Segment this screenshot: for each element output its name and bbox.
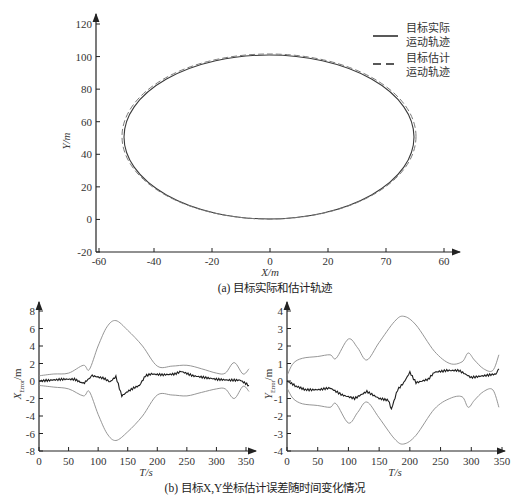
x-axis-label: T/s (139, 466, 152, 478)
x-tick-label: 150 (119, 455, 136, 467)
x-ticks: -60-40-200207060 (92, 248, 450, 267)
y-tick-label: 8 (30, 305, 36, 317)
figure: -20020406080100120 -60-40-200207060 Y/m … (0, 0, 522, 502)
y-tick-label: 0 (30, 375, 36, 387)
y-axis-label: YError/m (262, 368, 276, 399)
caption-a: (a) 目标实际和估计轨迹 (218, 281, 334, 295)
y-error-chart: -4-3-2-101234 050100150200250300350 YErr… (262, 302, 511, 478)
y-tick-label: -6 (26, 428, 36, 440)
y-tick-label: 120 (76, 18, 93, 30)
y-tick-label: -8 (26, 445, 36, 457)
y-tick-label: 80 (81, 83, 93, 95)
x-tick-label: 150 (371, 455, 388, 467)
y-tick-label: 6 (30, 323, 36, 335)
y-tick-label: -3 (274, 428, 284, 440)
y-axis-label: Y/m (60, 132, 72, 149)
actual-trajectory (124, 55, 414, 219)
y-tick-label: 20 (81, 181, 93, 193)
x-tick-label: -60 (92, 255, 107, 267)
y-tick-label: 2 (30, 358, 36, 370)
lower-bound-line (39, 385, 249, 440)
legend: 目标实际 运动轨迹 目标估计 运动轨迹 (373, 21, 450, 78)
y-tick-label: 0 (87, 213, 93, 225)
x-tick-label: 0 (284, 455, 290, 467)
x-tick-label: 50 (63, 455, 75, 467)
upper-bound-line (287, 316, 499, 376)
x-error-chart: -8-6-4-202468 050100150200250300350 XErr… (11, 302, 256, 478)
x-tick-label: 350 (238, 455, 255, 467)
x-tick-label: 100 (340, 455, 357, 467)
y-tick-label: 0 (278, 375, 284, 387)
x-tick-label: -20 (205, 255, 220, 267)
x-tick-label: 200 (402, 455, 419, 467)
y-tick-label: 4 (30, 340, 36, 352)
y-tick-label: 1 (278, 358, 284, 370)
legend-actual-line2: 运动轨迹 (406, 35, 450, 48)
y-tick-label: 3 (278, 323, 284, 335)
y-tick-label: 40 (81, 148, 93, 160)
error-line (39, 371, 249, 396)
x-tick-label: 20 (323, 255, 335, 267)
y-tick-label: 100 (76, 51, 93, 63)
y-tick-label: 2 (278, 340, 284, 352)
x-ticks: 050100150200250300350 (36, 447, 255, 467)
x-tick-label: 250 (179, 455, 196, 467)
x-axis-label: X/m (260, 266, 279, 278)
x-tick-label: 300 (208, 455, 225, 467)
x-tick-label: 350 (494, 455, 511, 467)
y-tick-label: -4 (274, 445, 284, 457)
series (39, 321, 249, 441)
trajectory-chart: -20020406080100120 -60-40-200207060 Y/m … (60, 14, 460, 295)
y-tick-label: -2 (274, 410, 283, 422)
x-ticks: 050100150200250300350 (284, 447, 511, 467)
y-tick-label: 60 (81, 116, 93, 128)
series (287, 316, 499, 444)
upper-bound-line (39, 321, 249, 376)
error-line (287, 369, 499, 409)
y-axis-label: XError/m (11, 368, 25, 400)
y-tick-label: 4 (278, 305, 284, 317)
x-axis-label: T/s (388, 466, 401, 478)
y-tick-label: -20 (77, 246, 92, 258)
y-ticks: -4-3-2-101234 (274, 305, 291, 457)
x-tick-label: 60 (439, 255, 451, 267)
x-tick-label: 300 (463, 455, 480, 467)
lower-bound-line (287, 388, 499, 444)
y-tick-label: -2 (26, 393, 35, 405)
y-tick-label: -4 (26, 410, 36, 422)
caption-b: (b) 目标X,Y坐标估计误差随时间变化情况 (165, 481, 367, 495)
x-tick-label: 100 (90, 455, 107, 467)
legend-estimated-line1: 目标估计 (406, 51, 450, 64)
x-tick-label: 50 (312, 455, 324, 467)
x-tick-label: -40 (147, 255, 162, 267)
x-tick-label: 0 (36, 455, 42, 467)
x-tick-label: 250 (432, 455, 449, 467)
legend-actual-line1: 目标实际 (406, 21, 450, 34)
y-tick-label: -1 (274, 393, 283, 405)
x-tick-label: 70 (381, 255, 393, 267)
legend-estimated-line2: 运动轨迹 (406, 65, 450, 78)
